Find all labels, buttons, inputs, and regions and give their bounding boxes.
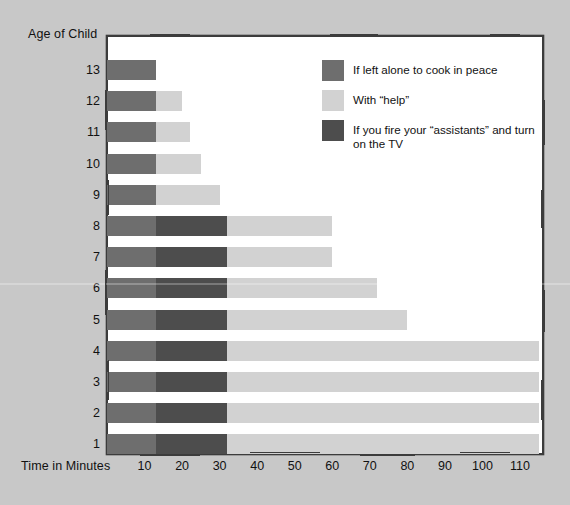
y-tick-label: 11 bbox=[66, 125, 100, 139]
bar-row bbox=[107, 247, 543, 267]
bar-segment bbox=[156, 185, 220, 205]
bar-segment bbox=[107, 341, 156, 361]
bar-segment bbox=[156, 91, 182, 111]
y-tick-label: 5 bbox=[66, 313, 100, 327]
plot-border-nick bbox=[235, 36, 290, 37]
bar-row bbox=[107, 185, 543, 205]
plot-border-nick bbox=[544, 100, 545, 145]
plot-border-nick bbox=[250, 452, 320, 453]
bar-segment bbox=[156, 310, 227, 330]
chart-legend: If left alone to cook in peaceWith “help… bbox=[322, 60, 537, 159]
y-tick-label: 9 bbox=[66, 188, 100, 202]
bar-row bbox=[107, 278, 543, 298]
bar-segment bbox=[156, 403, 227, 423]
legend-item: If you fire your “assistants” and turn o… bbox=[322, 120, 537, 150]
x-tick-label: 70 bbox=[363, 459, 377, 473]
bar-segment bbox=[107, 403, 156, 423]
x-tick-label: 50 bbox=[288, 459, 302, 473]
bar-segment bbox=[107, 154, 156, 174]
plot-border-nick bbox=[460, 452, 510, 453]
bar-segment bbox=[107, 247, 156, 267]
bar-segment bbox=[156, 278, 227, 298]
plot-border-nick bbox=[430, 36, 474, 37]
bar-segment bbox=[227, 341, 539, 361]
y-tick-label: 13 bbox=[66, 63, 100, 77]
bar-segment bbox=[107, 216, 156, 236]
bar-segment bbox=[107, 278, 156, 298]
legend-item: With “help” bbox=[322, 90, 537, 111]
legend-label: If left alone to cook in peace bbox=[353, 60, 497, 77]
y-tick-label: 12 bbox=[66, 94, 100, 108]
legend-swatch bbox=[322, 120, 344, 141]
x-tick-label: 80 bbox=[400, 459, 414, 473]
bar-segment bbox=[227, 310, 407, 330]
bar-segment bbox=[156, 372, 227, 392]
y-tick-label: 10 bbox=[66, 157, 100, 171]
paper-texture bbox=[0, 283, 570, 285]
bar-segment bbox=[107, 434, 156, 454]
x-tick-label: 90 bbox=[438, 459, 452, 473]
plot-border-nick bbox=[108, 180, 109, 215]
x-tick-label: 110 bbox=[510, 459, 530, 473]
plot-border-nick bbox=[108, 360, 109, 400]
bar-segment bbox=[107, 91, 156, 111]
x-tick-label: 20 bbox=[175, 459, 189, 473]
bar-row bbox=[107, 216, 543, 236]
legend-swatch bbox=[322, 90, 344, 111]
plot-border-nick bbox=[541, 190, 542, 228]
x-tick-label: 30 bbox=[213, 459, 227, 473]
legend-label: With “help” bbox=[353, 90, 409, 107]
y-tick-label: 1 bbox=[66, 437, 100, 451]
plot-border-nick bbox=[541, 380, 542, 420]
bar-segment bbox=[156, 434, 227, 454]
plot-border-nick bbox=[544, 290, 545, 332]
bar-row bbox=[107, 372, 543, 392]
bar-segment bbox=[107, 310, 156, 330]
bar-row bbox=[107, 341, 543, 361]
y-tick-label: 8 bbox=[66, 219, 100, 233]
x-tick-label: 10 bbox=[138, 459, 152, 473]
plot-border-nick bbox=[140, 455, 200, 456]
plot-border-nick bbox=[330, 34, 378, 35]
y-tick-label: 7 bbox=[66, 250, 100, 264]
x-tick-label: 100 bbox=[472, 459, 493, 473]
legend-swatch bbox=[322, 60, 344, 81]
bar-segment bbox=[156, 122, 190, 142]
bar-segment bbox=[107, 372, 156, 392]
bar-segment bbox=[227, 278, 377, 298]
plot-border-nick bbox=[150, 34, 190, 35]
bar-segment bbox=[107, 122, 156, 142]
x-tick-label: 40 bbox=[250, 459, 264, 473]
x-axis-tick-labels: 102030405060708090100110 bbox=[0, 459, 570, 479]
y-tick-label: 3 bbox=[66, 375, 100, 389]
y-axis-tick-labels: 13121110987654321 bbox=[60, 36, 100, 454]
bar-row bbox=[107, 310, 543, 330]
y-tick-label: 4 bbox=[66, 344, 100, 358]
chart-canvas: Age of Child Time in Minutes 13121110987… bbox=[0, 0, 570, 505]
bar-segment bbox=[227, 403, 539, 423]
bar-segment bbox=[227, 216, 332, 236]
x-tick-label: 60 bbox=[325, 459, 339, 473]
bar-segment bbox=[156, 154, 201, 174]
bar-segment bbox=[227, 372, 539, 392]
legend-item: If left alone to cook in peace bbox=[322, 60, 537, 81]
bar-segment bbox=[227, 247, 332, 267]
plot-border-nick bbox=[490, 34, 520, 35]
bar-segment bbox=[107, 60, 156, 80]
plot-border-nick bbox=[105, 90, 106, 130]
legend-label: If you fire your “assistants” and turn o… bbox=[353, 120, 537, 150]
bar-row bbox=[107, 403, 543, 423]
bar-segment bbox=[107, 185, 156, 205]
plot-border-nick bbox=[105, 270, 106, 315]
y-tick-label: 2 bbox=[66, 406, 100, 420]
bar-segment bbox=[156, 341, 227, 361]
bar-segment bbox=[156, 216, 227, 236]
plot-border-nick bbox=[360, 455, 415, 456]
bar-segment bbox=[156, 247, 227, 267]
